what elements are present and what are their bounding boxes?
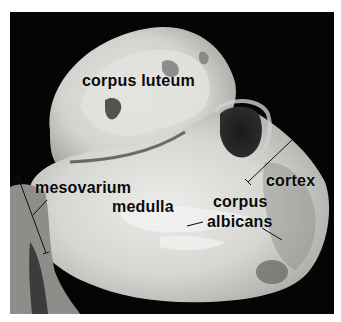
label-corpus-albicans-line2: albicans: [207, 214, 273, 230]
specimen-photo: [10, 12, 334, 314]
label-medulla: medulla: [112, 199, 174, 215]
label-mesovarium: mesovarium: [35, 180, 131, 196]
specimen-illustration: [10, 12, 334, 314]
label-cortex: cortex: [266, 173, 315, 189]
label-corpus-albicans-line1: corpus: [213, 194, 268, 210]
label-corpus-luteum: corpus luteum: [82, 73, 195, 89]
